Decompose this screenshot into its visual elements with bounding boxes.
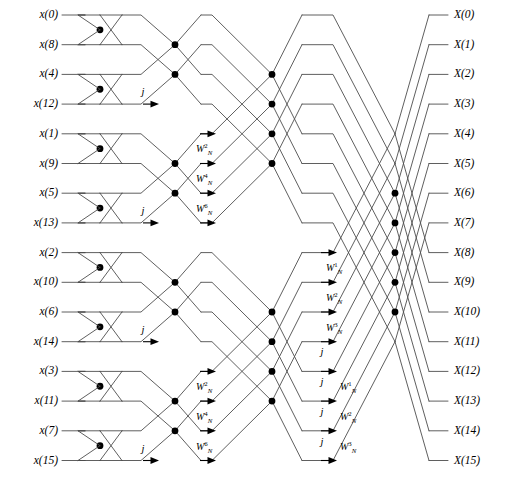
stage2-butterfly-node xyxy=(172,41,179,48)
output-label-15: X(15) xyxy=(454,455,480,467)
twiddle-superscript: 2 xyxy=(334,291,337,298)
fft-butterfly-diagram: x(0)x(8)x(4)x(12)x(1)x(9)x(5)x(13)x(2)x(… xyxy=(0,0,512,479)
stage1-edge-in xyxy=(78,253,100,268)
stage4-twiddle-arrow xyxy=(329,309,338,316)
stage2-edge-in xyxy=(122,282,175,312)
twiddle-w-label-s3-w6-a: W6N xyxy=(196,203,212,217)
stage2-edge-in xyxy=(122,371,175,401)
stage4-edge-out xyxy=(395,342,429,461)
stage4-edge-out xyxy=(395,15,429,134)
stage2-edge-in xyxy=(122,164,175,194)
twiddle-w-label-s4-w3-b: W3N xyxy=(340,441,356,455)
stage2-butterfly-node xyxy=(172,71,179,78)
twiddle-superscript: 1 xyxy=(334,261,337,268)
input-label-6: x(5) xyxy=(4,187,58,199)
stage2-twiddle-arrow xyxy=(151,457,160,464)
twiddle-superscript: 3 xyxy=(334,321,337,328)
output-label-14: X(14) xyxy=(454,425,480,437)
stage2-edge-in xyxy=(122,401,175,431)
stage3-edge-out xyxy=(272,401,302,460)
twiddle-superscript: 3 xyxy=(348,440,351,447)
stage4-edge-out xyxy=(395,312,429,431)
stage2-edge-in xyxy=(122,74,175,104)
twiddle-subscript: N xyxy=(352,447,357,454)
twiddle-w-label-s4-w1-b: W1N xyxy=(340,381,356,395)
input-label-15: x(15) xyxy=(4,455,58,467)
stage1-edge-in xyxy=(78,149,100,164)
stage1-edge-in xyxy=(78,312,100,327)
stage3-butterfly-node xyxy=(269,398,276,405)
stage3-butterfly-node xyxy=(269,309,276,316)
stage1-edge-in xyxy=(78,193,100,208)
stage4-butterfly-node xyxy=(392,279,399,286)
stage2-edge-in xyxy=(122,45,175,75)
stage2-edge-out xyxy=(175,253,201,283)
twiddle-j-label-s2-j-r11: j xyxy=(142,325,145,336)
twiddle-j-label-s2-j-r3: j xyxy=(142,87,145,98)
twiddle-subscript: N xyxy=(208,209,213,216)
stage2-edge-in xyxy=(122,15,175,45)
twiddle-j-label-s4-j-r14: j xyxy=(321,407,324,418)
output-label-2: X(2) xyxy=(454,69,474,81)
twiddle-w-label-s3-w2-a: W2N xyxy=(196,143,212,157)
twiddle-subscript: N xyxy=(352,387,357,394)
stage2-edge-in xyxy=(122,164,175,194)
output-label-13: X(13) xyxy=(454,395,480,407)
input-label-5: x(9) xyxy=(4,158,58,170)
stage2-edge-out xyxy=(175,312,201,342)
stage1-edge-in xyxy=(78,371,100,386)
stage2-edge-in xyxy=(122,134,175,164)
stage1-edge-in xyxy=(78,386,100,401)
twiddle-w-label-s3-w2-b: W2N xyxy=(196,381,212,395)
stage2-edge-in xyxy=(122,401,175,431)
stage2-edge-in xyxy=(122,282,175,312)
stage3-butterfly-node xyxy=(269,130,276,137)
output-label-11: X(11) xyxy=(454,336,479,348)
twiddle-superscript: 1 xyxy=(348,380,351,387)
stage3-butterfly-node xyxy=(269,160,276,167)
stage1-edge-in xyxy=(78,327,100,342)
stage4-butterfly-node xyxy=(392,309,399,316)
stage2-edge-in xyxy=(122,312,175,342)
stage4-edge-out xyxy=(395,45,429,164)
twiddle-j-label-s4-j-r12: j xyxy=(321,347,324,358)
stage3-butterfly-node xyxy=(269,338,276,345)
input-label-1: x(8) xyxy=(4,39,58,51)
input-label-13: x(11) xyxy=(4,395,58,407)
stage4-butterfly-node xyxy=(392,220,399,227)
input-label-7: x(13) xyxy=(4,217,58,229)
stage2-edge-in xyxy=(122,193,175,223)
stage3-edge-out xyxy=(272,371,302,430)
stage4-twiddle-arrow xyxy=(329,427,338,434)
output-label-0: X(0) xyxy=(454,9,474,21)
output-label-7: X(7) xyxy=(454,217,474,229)
output-label-10: X(10) xyxy=(454,306,480,318)
stage4-edge-out xyxy=(395,74,429,193)
stage1-edge-in xyxy=(78,134,100,149)
twiddle-w-label-s4-w2-b: W2N xyxy=(340,411,356,425)
stage4-twiddle-arrow xyxy=(329,249,338,256)
stage1-edge-in xyxy=(78,267,100,282)
stage3-edge-out xyxy=(272,164,302,223)
output-label-5: X(5) xyxy=(454,158,474,170)
stage4-edge-out xyxy=(395,253,429,372)
stage2-edge-out xyxy=(175,74,201,104)
stage3-edge-out xyxy=(272,253,302,312)
twiddle-w-label-s4-w2-a: W2N xyxy=(326,292,342,306)
stage3-butterfly-node xyxy=(269,101,276,108)
stage3-edge-out xyxy=(272,15,302,74)
twiddle-w-label-s3-w6-b: W6N xyxy=(196,441,212,455)
stage2-twiddle-arrow xyxy=(151,220,160,227)
output-label-1: X(1) xyxy=(454,39,474,51)
twiddle-superscript: 6 xyxy=(204,202,207,209)
stage3-edge-out xyxy=(272,134,302,193)
input-label-4: x(1) xyxy=(4,128,58,140)
twiddle-superscript: 4 xyxy=(204,172,207,179)
stage2-butterfly-node xyxy=(172,427,179,434)
twiddle-superscript: 2 xyxy=(348,410,351,417)
stage2-butterfly-node xyxy=(172,279,179,286)
output-label-6: X(6) xyxy=(454,187,474,199)
signal-flow-graph xyxy=(0,0,512,479)
stage4-twiddle-arrow xyxy=(329,338,338,345)
stage1-edge-in xyxy=(78,74,100,89)
